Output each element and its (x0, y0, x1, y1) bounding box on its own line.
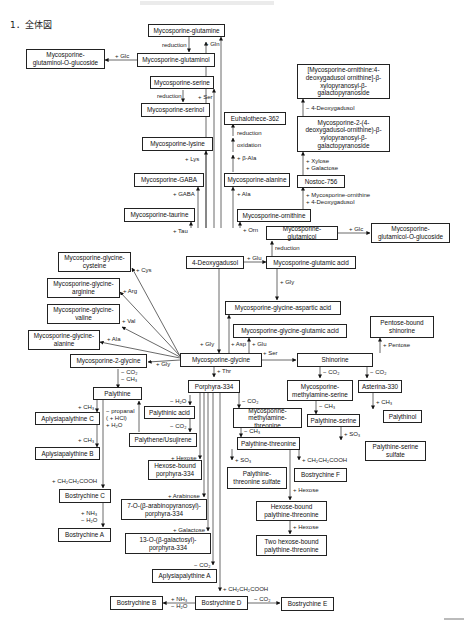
node-palythine-serine: Palythine-serine (307, 414, 360, 427)
label-minus-deoxygadusol: − 4-Deoxygadusol (306, 105, 355, 112)
node-two-hexose-bound-palythine-threonine: Two hexose-bound palythine-threonine (256, 535, 327, 556)
label-plus-tau: + Tau (173, 228, 188, 235)
node-bostrychine-a: Bostrychine A (58, 528, 111, 542)
label-plus-hexose: + Hexose (171, 455, 197, 462)
node-mg-arginine: Mycosporine-glycine- arginine (47, 278, 120, 298)
label-plus-nh3-minus-h2o: + NH₃ − H₂O (81, 510, 98, 524)
label-plus-galactose: + Galactose (173, 527, 205, 534)
node-galactosyl-porphyra: 13-O-(β-galactosyl)- porphyra-334 (125, 533, 211, 554)
label-minus-ch3: − CH₃ (319, 403, 335, 410)
node-palythine-threonine: Palythine-threonine (237, 437, 300, 450)
label-plus-cys: + Cys (136, 267, 152, 274)
node-mma-threonine: Mycosporine- methylamine-threonine (233, 408, 302, 428)
node-bostrychine-f: Bostrychine F (294, 468, 347, 482)
label-plus-xylose-galactose: + Xylose + Galactose (306, 158, 338, 172)
node-hexose-bound-palythine-threonine: Hexose-bound palythine-threonine (256, 501, 327, 521)
node-mycosporine-serinol: Mycosporine-serinol (141, 103, 210, 117)
label-plus-ser: + Ser (263, 350, 278, 357)
node-palythinic-acid: Palythinic acid (144, 406, 195, 419)
label-oxidation: oxidation (237, 142, 261, 149)
label-minus-co2: − CO₂ (323, 369, 340, 376)
node-palythene-usujirene: Palythene/Usujirene (129, 433, 197, 447)
label-plus-ch3: + CH₃ (78, 437, 94, 444)
node-palythine-serine-sulfate: Palythine-serine sulfate (365, 441, 426, 461)
node-mg-aspartic-acid: Mycosporine-glycine-aspartic acid (225, 301, 341, 315)
page-corner-mark (444, 618, 464, 620)
node-ornithine-xylo-galacto-1: [Mycosporine-ornithine:4- deoxygadusol o… (297, 64, 390, 99)
label-plus-ornithine-deoxygadusol: + Mycosporine-ornithine + 4-Deoxygadusol (306, 192, 370, 206)
biosynthesis-diagram: 1．全体図 (0, 0, 464, 622)
label-plus-ch2ch2cooh: + CH₂CH₂COOH (302, 457, 347, 464)
node-mycosporine-ornithine: Mycosporine-ornithine (237, 209, 311, 222)
label-reduction: reduction (162, 42, 187, 49)
label-plus-nh3-minus-h2o: + NH₃ − H₂O (171, 596, 188, 610)
label-minus-co2: − CO₂ (194, 562, 211, 569)
label-plus-hexose: + Hexose (293, 487, 319, 494)
label-plus-arg: + Arg (123, 288, 137, 295)
node-mg-valine: Mycosporine-glycine- valine (47, 304, 120, 324)
label-minus-co2-ch3: − CO₂ − CH₃ (121, 369, 138, 383)
label-plus-gln: + Gln (205, 41, 220, 48)
node-mycosporine-glutaminol: Mycosporine-glutaminol (137, 53, 215, 67)
label-plus-ala: + Ala (107, 336, 121, 343)
label-plus-hexose: + Hexose (293, 524, 319, 531)
node-mycosporine-alanine: Mycosporine-alanine (224, 173, 290, 187)
label-plus-ch3: + CH₃ (376, 399, 392, 406)
label-plus-glc: + Glc (115, 53, 129, 60)
label-plus-ala: + Ala (237, 191, 251, 198)
label-plus-gaba: + GABA (173, 191, 195, 198)
node-porphyra-334: Porphyra-334 (188, 380, 240, 393)
node-mycosporine-glutamic-acid: Mycosporine-glutamic acid (266, 256, 356, 269)
label-minus-co2: − CO₂ (254, 596, 271, 603)
node-arabinopyranosyl-porphyra: 7-O-(β-arabinopyranosyl)- porphyra-334 (121, 499, 207, 520)
node-palythinol: Palythinol (383, 410, 422, 423)
node-mycosporine-glycine: Mycosporine-glycine (180, 353, 262, 367)
node-euhalothece-362: Euhalothece-362 (224, 112, 286, 125)
label-plus-glc: + Glc (349, 226, 363, 233)
label-plus-val: + Val (122, 318, 135, 325)
node-bostrychine-e: Bostrychine E (281, 597, 334, 611)
node-mycosporine-gaba: Mycosporine-GABA (134, 173, 204, 187)
node-mycosporine-glutamicol-glucoside: Mycosporine- glutamicol-O-glucoside (371, 223, 450, 243)
label-reduction: reduction (275, 245, 300, 252)
node-mma-serine: Mycosporine- methylamine-serine (287, 380, 353, 401)
label-minus-co2: − CO₂ (370, 369, 387, 376)
label-plus-lys: + Lys (185, 156, 199, 163)
label-plus-thr: + Thr (217, 368, 231, 375)
label-plus-ch2ch2cooh: + CH₂CH₂COOH (52, 478, 97, 485)
node-hexose-bound-porphyra: Hexose-bound porphyra-334 (148, 460, 202, 480)
node-mycosporine-lysine: Mycosporine-lysine (142, 137, 213, 151)
node-asterina-330: Asterina-330 (358, 380, 402, 393)
label-plus-so3: + SO₃ (344, 431, 360, 438)
node-shinorine: Shinorine (297, 353, 373, 367)
label-minus-propanal: − propanal ( + HCl) + H₂O (106, 408, 135, 429)
label-reduction: reduction (237, 130, 262, 137)
label-plus-ch3: + CH₃ (78, 404, 94, 411)
node-palythine-threonine-sulfate: Palythine- threonine sulfate (227, 467, 287, 489)
label-plus-gly: + Gly (156, 361, 170, 368)
node-mg-cysteine: Mycosporine-glycine- cysteine (58, 252, 131, 272)
node-ornithine-xylo-galacto-2: Mycosporine-2-(4- deoxygadusol-ornithine… (297, 116, 390, 152)
node-mycosporine-taurine: Mycosporine-taurine (124, 208, 195, 222)
node-mycosporine-glutamine: Mycosporine-glutamine (148, 24, 225, 37)
node-mycosporine-glutaminol-glucoside: Mycosporine- glutaminol-O-glucoside (26, 49, 105, 69)
label-plus-arabinose: + Arabinose (168, 493, 200, 500)
node-mycosporine-glutamicol: Mycosporine-glutamicol (266, 226, 338, 240)
label-plus-ch2ch2cooh: + CH₂CH₂COOH (223, 586, 268, 593)
label-plus-glu: + Glu (252, 341, 267, 348)
label-minus-co2: − CO₂ (242, 398, 259, 405)
label-plus-pentose: + Pentose (383, 342, 410, 349)
node-aplysiapalythine-c: Aplysiapalythine C (35, 412, 100, 425)
label-minus-co2: − CO₂ (170, 423, 187, 430)
label-plus-beta-ala: + β-Ala (237, 155, 256, 162)
node-4-deoxygadusol: 4-Deoxygadusol (186, 256, 244, 269)
node-pentose-bound-shinorine: Pentose-bound shinorine (370, 316, 434, 338)
label-plus-asp: + Asp (231, 341, 246, 348)
label-minus-ch3: − CH₃ (244, 428, 260, 435)
node-mg-alanine: Mycosporine-glycine- alanine (28, 330, 100, 350)
node-aplysiapalythine-b: Aplysiapalythine B (35, 447, 100, 460)
node-nostoc-756: Nostoc-756 (297, 175, 345, 188)
node-aplysiapalythine-a: Aplysiapalythine A (152, 569, 217, 583)
label-plus-glu: + Glu (247, 255, 262, 262)
label-plus-so3: + SO₃ (235, 457, 251, 464)
